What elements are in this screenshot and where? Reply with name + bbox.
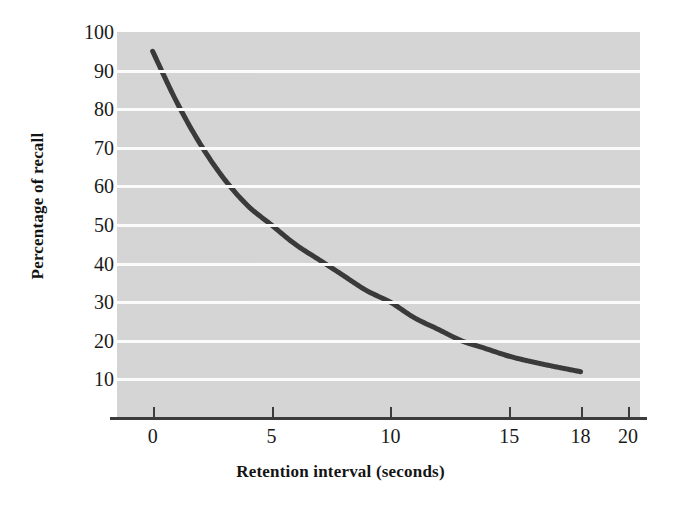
gridline	[117, 224, 640, 227]
y-tick-label: 60	[52, 176, 114, 196]
x-tick-mark	[390, 407, 392, 418]
recall-curve-line	[153, 51, 581, 371]
gridline	[117, 301, 640, 304]
x-tick-label: 0	[123, 426, 183, 446]
x-tick-mark	[272, 407, 274, 418]
gridline	[117, 70, 640, 73]
y-axis-tick-labels: 102030405060708090100	[52, 0, 114, 506]
y-tick-label: 80	[52, 99, 114, 119]
y-tick-label: 10	[52, 369, 114, 389]
gridline	[117, 147, 640, 150]
y-tick-label: 30	[52, 292, 114, 312]
x-tick-label: 20	[598, 426, 658, 446]
forgetting-curve-figure: Percentage of recall 1020304050607080901…	[0, 0, 681, 506]
y-tick-label: 50	[52, 215, 114, 235]
gridline	[117, 108, 640, 111]
x-tick-label: 10	[360, 426, 420, 446]
gridline	[117, 340, 640, 343]
x-axis-line	[110, 417, 647, 420]
y-axis-title: Percentage of recall	[28, 86, 48, 326]
gridline	[117, 185, 640, 188]
x-axis-title: Retention interval (seconds)	[0, 462, 681, 482]
y-tick-label: 40	[52, 254, 114, 274]
x-tick-mark	[581, 407, 583, 418]
y-tick-label: 70	[52, 138, 114, 158]
plot-area	[117, 32, 640, 418]
y-tick-label: 20	[52, 331, 114, 351]
x-tick-label: 15	[479, 426, 539, 446]
gridline	[117, 378, 640, 381]
x-tick-mark	[153, 407, 155, 418]
x-tick-mark	[509, 407, 511, 418]
x-tick-mark	[628, 407, 630, 418]
x-tick-label: 5	[242, 426, 302, 446]
y-tick-label: 90	[52, 61, 114, 81]
y-tick-label: 100	[52, 22, 114, 42]
gridline	[117, 263, 640, 266]
